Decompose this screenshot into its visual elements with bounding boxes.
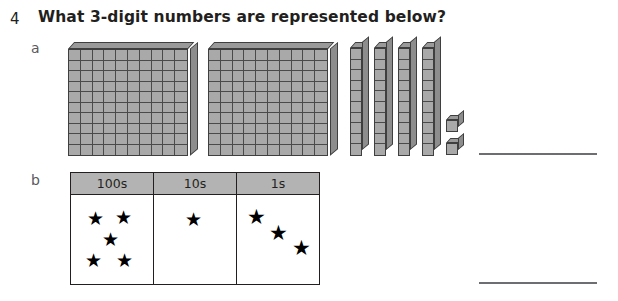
column-header-hundreds: 100s — [71, 173, 154, 194]
rod-front-grid — [398, 48, 410, 156]
star-icon: ★ — [269, 223, 288, 244]
place-value-table: 100s 10s 1s ★ ★ ★ ★ ★ ★ ★ ★ ★ — [70, 172, 320, 285]
unit-side-face — [458, 133, 464, 150]
flat-side-face — [190, 42, 198, 156]
flat-front-grid — [68, 49, 188, 156]
flat-side-face — [330, 42, 338, 156]
tens-rod-block — [422, 42, 442, 156]
unit-front-face — [446, 120, 458, 132]
part-b-label: b — [31, 172, 40, 188]
unit-front-face — [446, 143, 458, 155]
hundreds-flat-block — [68, 42, 198, 156]
flat-front-grid — [208, 49, 328, 156]
star-icon: ★ — [292, 238, 311, 259]
cell-tens-stars: ★ — [154, 195, 237, 284]
tens-rod-block — [350, 42, 370, 156]
cell-hundreds-stars: ★ ★ ★ ★ ★ — [71, 195, 154, 284]
star-icon: ★ — [85, 251, 102, 270]
base-ten-blocks-group — [0, 0, 618, 165]
flat-top-face — [208, 42, 334, 49]
rod-side-face — [434, 36, 441, 150]
column-header-tens: 10s — [154, 173, 237, 194]
star-icon: ★ — [87, 209, 104, 228]
rod-front-grid — [422, 48, 434, 156]
answer-line-part-b[interactable] — [479, 282, 597, 284]
unit-side-face — [458, 110, 464, 127]
column-header-ones: 1s — [237, 173, 319, 194]
ones-unit-block — [446, 138, 464, 155]
hundreds-flat-block — [208, 42, 338, 156]
ones-unit-block — [446, 115, 464, 132]
rod-side-face — [362, 36, 369, 150]
flat-top-face — [68, 42, 194, 49]
star-icon: ★ — [247, 207, 266, 228]
tens-rod-block — [398, 42, 418, 156]
star-icon: ★ — [115, 208, 132, 227]
rod-front-grid — [374, 48, 386, 156]
star-icon: ★ — [185, 210, 202, 229]
place-value-header-row: 100s 10s 1s — [71, 173, 319, 195]
place-value-body-row: ★ ★ ★ ★ ★ ★ ★ ★ ★ — [71, 195, 319, 284]
cell-ones-stars: ★ ★ ★ — [237, 195, 319, 284]
star-icon: ★ — [102, 230, 119, 249]
tens-rod-block — [374, 42, 394, 156]
star-icon: ★ — [116, 251, 133, 270]
rod-front-grid — [350, 48, 362, 156]
rod-side-face — [410, 36, 417, 150]
rod-side-face — [386, 36, 393, 150]
answer-line-part-a[interactable] — [479, 153, 597, 155]
